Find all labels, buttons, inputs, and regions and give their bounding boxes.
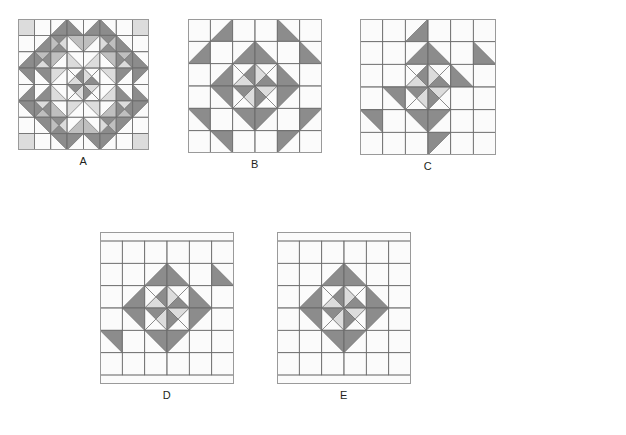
quilt-canvas-a	[18, 19, 149, 150]
quilt-figure-c: C	[360, 19, 496, 172]
quilt-caption-e: E	[277, 389, 411, 401]
quilt-caption-b: B	[188, 158, 322, 170]
quilt-figure-e: E	[277, 232, 411, 401]
quilt-canvas-c	[360, 19, 496, 155]
quilt-canvas-d	[100, 232, 234, 384]
quilt-caption-a: A	[18, 155, 149, 167]
quilt-figure-a: A	[18, 19, 149, 167]
quilt-figure-b: B	[188, 19, 322, 170]
quilt-figure-d: D	[100, 232, 234, 401]
quilt-canvas-b	[188, 19, 322, 153]
quilt-caption-d: D	[100, 389, 234, 401]
quilt-caption-c: C	[360, 160, 496, 172]
quilt-canvas-e	[277, 232, 411, 384]
